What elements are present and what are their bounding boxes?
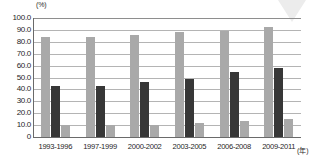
x-axis-unit-label: (年) (297, 145, 309, 155)
bar-group-bars (33, 18, 78, 137)
bar-group (167, 18, 212, 137)
bar-group (212, 18, 257, 137)
x-axis-tick-label: 2000-2002 (122, 142, 167, 156)
bar (41, 37, 50, 137)
x-axis-tick-label: 1997-1999 (78, 142, 123, 156)
y-axis-tick-labels: 100.090.080.070.060.050.040.030.020.010.… (0, 18, 31, 137)
bar (96, 86, 105, 137)
y-axis-tick-label: 100.0 (0, 14, 31, 22)
bar (240, 121, 249, 137)
y-axis-line (33, 18, 34, 138)
bar-group (78, 18, 123, 137)
bar-group-bars (212, 18, 257, 137)
x-axis-tick-labels: 1993-19961997-19992000-20022003-20052006… (33, 142, 301, 156)
bar-group-bars (122, 18, 167, 137)
bar (140, 82, 149, 137)
bar-groups (33, 18, 301, 137)
bar (130, 35, 139, 137)
bar (86, 37, 95, 137)
bar (264, 27, 273, 137)
bar (195, 123, 204, 137)
y-axis-tick-label: 70.0 (0, 50, 31, 58)
bar-group-bars (167, 18, 212, 137)
y-axis-tick-label: 90.0 (0, 26, 31, 34)
x-axis-tick-label: 1993-1996 (33, 142, 78, 156)
gridline (33, 137, 301, 138)
bar (274, 68, 283, 137)
y-axis-tick-label: 30.0 (0, 97, 31, 105)
y-axis-tick-label: 60.0 (0, 62, 31, 70)
bar (61, 125, 70, 137)
x-axis-tick-label: 2003-2005 (167, 142, 212, 156)
x-axis-tick-label: 2006-2008 (212, 142, 257, 156)
y-axis-tick-label: 80.0 (0, 38, 31, 46)
y-axis-tick-label: 50.0 (0, 74, 31, 82)
bar (230, 72, 239, 137)
bar (106, 125, 115, 137)
bar (150, 125, 159, 137)
y-axis-unit-label: (%) (36, 1, 46, 8)
bar (220, 31, 229, 138)
y-axis-tick-label: 0 (0, 133, 31, 141)
bar-group (122, 18, 167, 137)
bar-group (256, 18, 301, 137)
bar-group-bars (78, 18, 123, 137)
y-axis-tick-label: 40.0 (0, 85, 31, 93)
x-axis-tick-label: 2009-2011 (256, 142, 301, 156)
y-axis-tick-label: 10.0 (0, 121, 31, 129)
bar (284, 119, 293, 137)
bar (185, 79, 194, 137)
bar-group (33, 18, 78, 137)
bar-chart: (%) 100.090.080.070.060.050.040.030.020.… (0, 0, 318, 162)
y-axis-tick-label: 20.0 (0, 109, 31, 117)
bar (175, 32, 184, 137)
bar-group-bars (256, 18, 301, 137)
bar (51, 86, 60, 137)
plot-area (33, 18, 301, 137)
